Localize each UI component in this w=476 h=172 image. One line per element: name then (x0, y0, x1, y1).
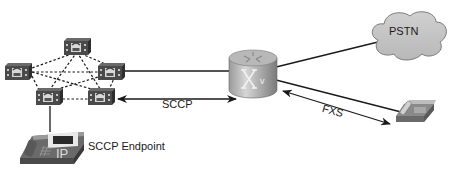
call-manager-server-icon (36, 88, 63, 105)
sccp-label: SCCP (162, 98, 193, 110)
svg-text:v: v (260, 76, 265, 86)
call-manager-server-icon (98, 63, 125, 80)
call-manager-server-icon (64, 38, 91, 55)
svg-text:IP: IP (56, 146, 68, 161)
sccp-endpoint-label: SCCP Endpoint (88, 140, 165, 152)
diagram-canvas: v (0, 0, 476, 172)
link-router-pstn (272, 42, 378, 68)
solid-links (50, 42, 405, 132)
call-manager-server-icon (5, 63, 32, 80)
analog-phone-icon (396, 100, 436, 122)
ip-phone-icon: IP (20, 132, 84, 164)
call-manager-server-icon (88, 88, 115, 105)
voice-router-icon: v (229, 50, 277, 98)
pstn-label: PSTN (389, 25, 418, 37)
